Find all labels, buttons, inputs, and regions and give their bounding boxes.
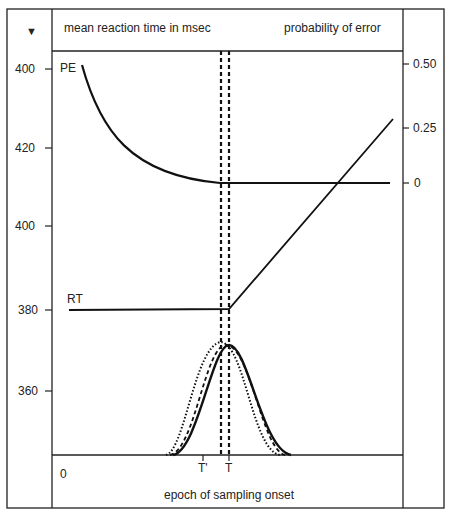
left-tick-label: 400 — [15, 219, 35, 233]
left-axis-title: mean reaction time in msec — [64, 21, 211, 35]
left-tick-label: 360 — [18, 384, 38, 398]
rt-label: RT — [67, 292, 83, 306]
dotted-distribution-curve — [166, 342, 280, 455]
pe-curve — [82, 65, 390, 183]
left-tick-label: 420 — [15, 141, 35, 155]
chart-figure — [0, 0, 452, 517]
solid-distribution-curve — [173, 345, 291, 455]
right-axis-title: probability of error — [284, 21, 381, 35]
left-tick-label: 380 — [18, 303, 38, 317]
left-axis-ticks — [45, 69, 52, 391]
left-tick-label: 400 — [15, 62, 35, 76]
outer-frame — [7, 9, 444, 508]
pe-label: PE — [60, 61, 76, 75]
rt-curve — [69, 119, 393, 310]
right-tick-label: 0 — [414, 176, 421, 190]
right-tick-label: 0.25 — [413, 121, 436, 135]
x-axis-title: epoch of sampling onset — [164, 488, 294, 502]
t-prime-label: T' — [198, 461, 208, 475]
right-axis-ticks — [403, 64, 409, 183]
origin-label: 0 — [60, 467, 67, 481]
right-tick-label: 0.50 — [413, 57, 436, 71]
t-label: T — [225, 461, 232, 475]
marker-icon: ▼ — [26, 24, 37, 38]
